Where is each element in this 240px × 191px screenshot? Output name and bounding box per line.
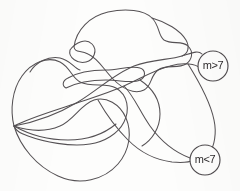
- diagram-canvas: m>7m<7: [0, 0, 240, 191]
- node-m-less-7[interactable]: m<7: [190, 145, 220, 175]
- curve-left-lobe: [12, 60, 127, 145]
- curves-group: [12, 10, 215, 181]
- node-m-greater-7[interactable]: m>7: [198, 51, 228, 81]
- curve-right-tail-to-m-less: [124, 86, 190, 158]
- curve-upper-lobe: [74, 10, 192, 92]
- curve-center-band: [14, 64, 200, 126]
- labeled-nodes-group: m>7m<7: [190, 51, 228, 175]
- node-m-greater-7-label: m>7: [203, 59, 224, 71]
- curve-diagram-svg: m>7m<7: [0, 0, 240, 191]
- node-m-less-7-label: m<7: [195, 153, 216, 165]
- curve-bottom-inner: [14, 124, 116, 140]
- curve-top-right-loop: [152, 18, 188, 56]
